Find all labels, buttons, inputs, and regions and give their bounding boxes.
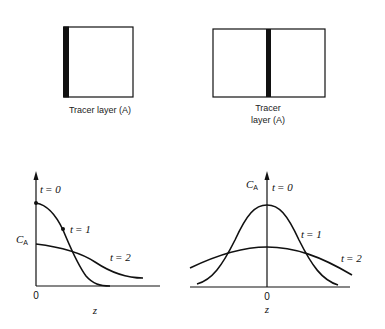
left-box-label: Tracer layer (A) (69, 105, 131, 115)
right-box-label-line2: layer (A) (251, 115, 285, 125)
left-label-t0: t= 0 (40, 183, 61, 195)
right-curve-t2 (190, 247, 352, 275)
right-tracer-layer (266, 29, 271, 97)
right-y-label: CA (246, 178, 258, 191)
right-label-t1: t= 1 (301, 228, 322, 240)
left-y-label: CA (16, 233, 28, 246)
left-plot: t= 0 t= 1 t= 2 CA 0 z (16, 171, 160, 316)
left-t1-point-icon (61, 227, 65, 231)
right-origin-label: 0 (264, 291, 270, 302)
left-x-label: z (92, 304, 98, 316)
left-y-axis-arrow-icon (34, 171, 39, 180)
left-label-t2: t= 2 (110, 251, 131, 263)
right-box-label-line1: Tracer (255, 103, 281, 113)
left-tracer-layer (63, 27, 69, 98)
right-label-t0: t= 0 (272, 181, 293, 193)
left-box-outline (64, 27, 133, 97)
right-label-t2: t= 2 (341, 252, 362, 264)
right-x-label: z (264, 303, 270, 315)
right-box-diagram: Tracer layer (A) (213, 29, 325, 125)
left-t0-point-icon (34, 201, 38, 205)
left-box-diagram: Tracer layer (A) (63, 27, 133, 116)
left-curve-t0 (36, 203, 110, 286)
right-plot: CA t= 0 t= 1 t= 2 0 z (190, 171, 362, 315)
tracer-diffusion-diagram: Tracer layer (A) Tracer layer (A) t= 0 t… (0, 0, 385, 329)
left-label-t1: t= 1 (70, 223, 91, 235)
right-y-axis-arrow-icon (265, 171, 270, 180)
left-origin-label: 0 (33, 290, 39, 301)
